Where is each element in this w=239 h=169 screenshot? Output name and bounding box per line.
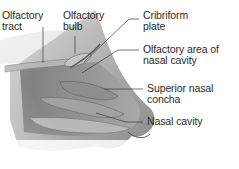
olfactory-diagram: Olfactory tract Olfactory bulb Cribrifor… [0, 0, 239, 169]
label-olfactory-bulb: Olfactory bulb [63, 10, 104, 32]
label-line-1: Nasal cavity [147, 116, 202, 127]
label-line-2: tract [2, 21, 43, 32]
label-olfactory-area: Olfactory area of nasal cavity [143, 44, 219, 66]
label-olfactory-tract: Olfactory tract [2, 10, 43, 32]
label-superior-nasal-concha: Superior nasal concha [147, 83, 213, 105]
label-line-2: bulb [63, 21, 104, 32]
label-nasal-cavity: Nasal cavity [147, 116, 202, 127]
label-line-2: concha [147, 94, 213, 105]
label-line-2: nasal cavity [143, 55, 219, 66]
label-cribriform-plate: Cribriform plate [143, 10, 188, 32]
label-line-2: plate [143, 21, 188, 32]
